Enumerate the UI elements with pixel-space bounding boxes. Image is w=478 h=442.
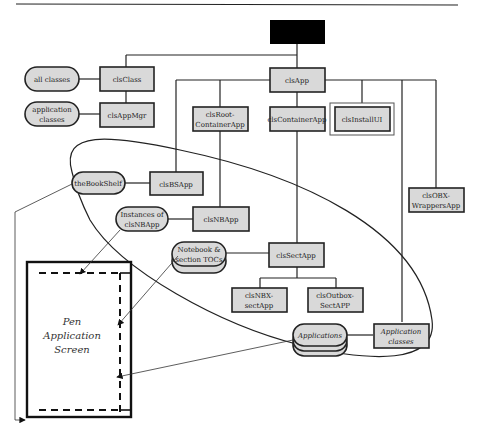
- instance-nbapp[interactable]: Instances of clsNBApp: [116, 207, 168, 231]
- node-clsApp[interactable]: clsApp: [270, 68, 325, 92]
- screen-label-2: Application: [42, 330, 101, 341]
- clsOutboxSectAPP-label-2: SectAPP: [320, 302, 350, 310]
- clsNBApp-label: clsNBApp: [203, 216, 239, 224]
- node-clsInstallUI[interactable]: clsInstallUI: [330, 103, 394, 135]
- node-clsSectApp[interactable]: clsSectApp: [269, 243, 324, 267]
- class-hierarchy-diagram: clsClass clsAppMgr clsApp clsRoot- Conta…: [0, 0, 478, 442]
- application-classes-label-1: Application: [380, 328, 422, 336]
- node-clsClass[interactable]: clsClass: [100, 67, 154, 91]
- clsNBXsectApp-label-2: sectApp: [245, 302, 274, 310]
- node-clsBSApp[interactable]: clsBSApp: [150, 172, 203, 195]
- instance-thebookshelf[interactable]: theBookShelf: [72, 172, 125, 194]
- instance-all-classes[interactable]: all classes: [25, 67, 79, 91]
- node-clsNBXsectApp[interactable]: clsNBX- sectApp: [232, 288, 287, 312]
- instance-notebook-tocs[interactable]: Notebook & section TOCs: [172, 242, 226, 273]
- instance-applications[interactable]: Applications: [293, 324, 347, 356]
- application-classes-label-2: classes: [388, 338, 414, 346]
- clsRootContainerApp-label-2: ContainerApp: [195, 121, 245, 129]
- instances-nbapp-label-1: Instances of: [120, 211, 164, 219]
- clsOBXWrappersApp-label-2: WrappersApp: [412, 202, 461, 210]
- clsSectApp-label: clsSectApp: [276, 252, 316, 260]
- applications-label: Applications: [297, 332, 342, 340]
- notebook-tocs-label-1: Notebook &: [178, 246, 221, 254]
- header-rule: [16, 4, 458, 5]
- clsOutboxSectAPP-label-1: clsOutbox-: [316, 292, 354, 300]
- thebookshelf-label: theBookShelf: [74, 180, 123, 188]
- clsAppMgr-label: clsAppMgr: [108, 112, 147, 120]
- clsContainerApp-label: clsContainerApp: [267, 116, 327, 124]
- application-classes-pill-label-2: classes: [39, 116, 65, 124]
- all-classes-label: all classes: [34, 76, 71, 84]
- screen-label-3: Screen: [54, 344, 90, 355]
- clsInstallUI-label: clsInstallUI: [342, 116, 383, 124]
- node-clsOutboxSectAPP[interactable]: clsOutbox- SectAPP: [308, 288, 363, 312]
- notebook-tocs-label-2: section TOCs: [175, 256, 222, 264]
- clsBSApp-label: clsBSApp: [159, 181, 193, 189]
- instances-nbapp-label-2: clsNBApp: [124, 221, 160, 229]
- node-clsContainerApp[interactable]: clsContainerApp: [267, 107, 327, 131]
- pen-application-screen[interactable]: Pen Application Screen: [27, 262, 131, 417]
- node-application-classes[interactable]: Application classes: [374, 324, 429, 348]
- clsClass-label: clsClass: [113, 76, 142, 84]
- clsRootContainerApp-label-1: clsRoot-: [206, 111, 235, 119]
- node-clsRootContainerApp[interactable]: clsRoot- ContainerApp: [193, 107, 248, 131]
- root-node[interactable]: [270, 20, 325, 44]
- node-clsOBXWrappersApp[interactable]: clsOBX- WrappersApp: [409, 188, 464, 212]
- clsOBXWrappersApp-label-1: clsOBX-: [422, 192, 450, 200]
- clsApp-label: clsApp: [285, 77, 309, 85]
- node-clsNBApp[interactable]: clsNBApp: [193, 207, 249, 231]
- application-classes-pill-label-1: application: [32, 106, 72, 114]
- instance-application-classes[interactable]: application classes: [25, 102, 79, 126]
- node-clsAppMgr[interactable]: clsAppMgr: [100, 103, 154, 127]
- screen-label-1: Pen: [62, 316, 82, 327]
- clsNBXsectApp-label-1: clsNBX-: [245, 292, 274, 300]
